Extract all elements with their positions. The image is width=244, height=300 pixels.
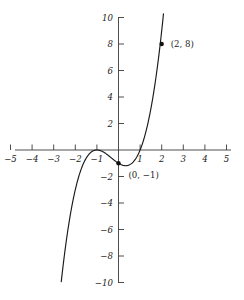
x-tick-label--1: −1 — [91, 154, 104, 164]
x-tick-label-5: 5 — [224, 154, 229, 164]
curve-cubic — [61, 14, 163, 282]
point-0-neg1-label: (0, −1) — [129, 170, 159, 180]
x-tick-label--4: −4 — [26, 154, 39, 164]
point-2-8 — [160, 42, 164, 46]
x-tick-label-2: 2 — [158, 154, 164, 164]
point-0-neg1 — [116, 161, 120, 165]
y-tick-label--10: −10 — [95, 278, 114, 288]
y-tick-label--8: −8 — [100, 251, 113, 261]
y-tick-label-2: 2 — [107, 119, 113, 129]
y-tick-label-6: 6 — [108, 66, 114, 76]
y-tick-label-10: 10 — [102, 13, 113, 23]
x-tick-label-4: 4 — [201, 154, 207, 164]
x-tick-label-3: 3 — [181, 154, 187, 164]
y-tick-label-8: 8 — [108, 39, 114, 49]
x-tick-label--3: −3 — [47, 154, 60, 164]
y-tick-label--2: −2 — [100, 172, 113, 182]
x-tick-label--2: −2 — [69, 154, 82, 164]
y-tick-label-4: 4 — [107, 92, 113, 102]
y-tick-label--6: −6 — [100, 225, 113, 235]
x-tick-label--5: −5 — [4, 154, 17, 164]
point-2-8-label: (2, 8) — [171, 39, 194, 49]
plot-area: −5−4−3−2−112345 −10−8−6−4−2246810 (2, 8)… — [0, 0, 244, 300]
cubic-function-graph: −5−4−3−2−112345 −10−8−6−4−2246810 (2, 8)… — [0, 0, 244, 300]
y-tick-label--4: −4 — [100, 198, 113, 208]
